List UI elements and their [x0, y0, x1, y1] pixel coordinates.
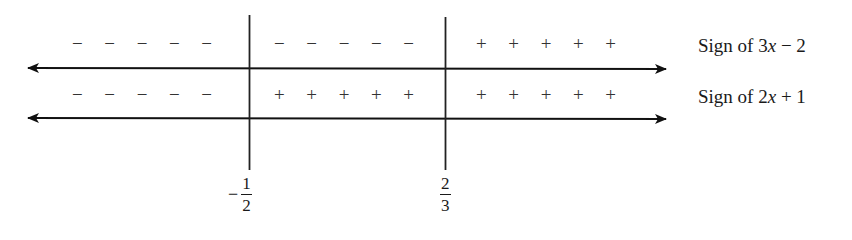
sign-glyph: − — [169, 33, 180, 55]
sign-glyph: − — [72, 84, 83, 106]
numerator: 1 — [241, 175, 252, 195]
sign-glyph: + — [306, 84, 317, 106]
row1-label-suffix: − 2 — [776, 35, 806, 56]
row1-label: Sign of 3x − 2 — [698, 35, 806, 57]
denominator: 2 — [242, 195, 251, 214]
row1-interval-1-signs: −−−−− — [72, 33, 212, 55]
row1-interval-3-signs: +++++ — [476, 33, 616, 55]
critical-point-label-two-thirds: 2 3 — [440, 175, 451, 214]
sign-glyph: + — [605, 84, 616, 106]
row2-interval-3-signs: +++++ — [476, 84, 616, 106]
sign-glyph: − — [169, 84, 180, 106]
row2-interval-2-signs: +++++ — [274, 84, 414, 106]
sign-glyph: − — [274, 33, 285, 55]
sign-glyph: − — [104, 33, 115, 55]
row1-label-var: x — [768, 35, 776, 56]
sign-glyph: + — [605, 33, 616, 55]
denominator: 3 — [441, 195, 450, 214]
sign-glyph: − — [201, 84, 212, 106]
critical-point-label-neg-half: − 1 2 — [228, 175, 252, 214]
sign-glyph: − — [371, 33, 382, 55]
sign-glyph: + — [339, 84, 350, 106]
row2-label-suffix: + 1 — [776, 86, 806, 107]
sign-glyph: + — [274, 84, 285, 106]
row2-label-prefix: Sign of 2 — [698, 86, 768, 107]
sign-glyph: − — [339, 33, 350, 55]
sign-glyph: + — [508, 84, 519, 106]
numerator: 2 — [440, 175, 451, 195]
row1-interval-2-signs: −−−−− — [274, 33, 414, 55]
sign-glyph: − — [403, 33, 414, 55]
sign-glyph: − — [104, 84, 115, 106]
sign-glyph: + — [476, 84, 487, 106]
sign-glyph: + — [371, 84, 382, 106]
row2-label-var: x — [768, 86, 776, 107]
sign-glyph: + — [403, 84, 414, 106]
sign-glyph: + — [573, 33, 584, 55]
sign-glyph: + — [541, 84, 552, 106]
sign-glyph: − — [201, 33, 212, 55]
sign-glyph: − — [137, 33, 148, 55]
sign-glyph: − — [137, 84, 148, 106]
sign-glyph: + — [508, 33, 519, 55]
sign-glyph: − — [72, 33, 83, 55]
row2-interval-1-signs: −−−−− — [72, 84, 212, 106]
number-line-row-1 — [28, 68, 666, 69]
row2-label: Sign of 2x + 1 — [698, 86, 806, 108]
negative-sign: − — [228, 184, 238, 205]
sign-glyph: − — [306, 33, 317, 55]
sign-glyph: + — [476, 33, 487, 55]
row1-label-prefix: Sign of 3 — [698, 35, 768, 56]
sign-glyph: + — [573, 84, 584, 106]
number-line-row-2 — [28, 118, 666, 119]
sign-glyph: + — [541, 33, 552, 55]
